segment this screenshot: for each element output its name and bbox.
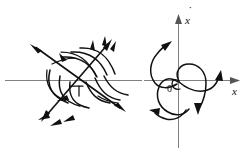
phase-portrait-canvas: x ˙ x 0 [0,0,251,158]
arrow-head-branch-ur-3 [102,36,107,47]
origin-label: 0 [167,83,172,94]
arrow-head-branch-ll-1 [38,113,50,120]
saddle-branches-lower-left [38,70,89,126]
arrow-head-branch-ur-4 [110,41,116,52]
horizontal-axis-label: x [231,85,237,97]
phase-portrait-figure: x ˙ x 0 [0,0,251,158]
arrow-head-spiral-right-outer [215,70,223,81]
vertical-axis-dot-accent: ˙ [188,4,192,18]
arrow-head-upper-left [30,44,42,54]
saddle-panel [5,36,142,126]
saddle-branches-upper-left [47,52,96,101]
arrow-head-branch-ll-2 [50,119,62,126]
arrow-head-spiral-bottom [149,108,160,115]
focus-panel [144,14,240,148]
spiral-arm-left [157,79,189,115]
arrow-head-spiral-left-outer [161,41,172,51]
horizontal-axis-arrow-icon [230,77,240,84]
arrow-head-spiral-right [194,103,202,115]
arrow-head-lower-right [114,103,126,113]
vertical-axis-arrow-icon [175,14,182,24]
arrow-head-branch-ll-3 [63,115,75,122]
